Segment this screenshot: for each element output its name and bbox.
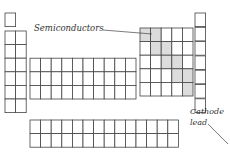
element-cell [83, 72, 94, 86]
element-cell [161, 82, 172, 96]
element-cell [30, 72, 41, 86]
element-cell [41, 85, 52, 99]
element-cell [62, 134, 73, 148]
element-cell [83, 134, 94, 148]
element-cell [125, 120, 136, 134]
element-cell [51, 72, 62, 86]
element-cell [94, 58, 105, 72]
element-cell [147, 120, 158, 134]
element-cell [136, 134, 147, 148]
element-cell [115, 72, 126, 86]
element-cell [51, 120, 62, 134]
element-cell [115, 58, 126, 72]
element-cell [104, 72, 115, 86]
semiconductors-label: Semiconductors [34, 23, 104, 33]
element-cell [62, 85, 73, 99]
element-cell [72, 85, 83, 99]
element-cell [41, 134, 52, 148]
element-cell [5, 31, 16, 45]
element-cell [151, 55, 162, 69]
element-cell [182, 69, 193, 83]
element-cell [94, 120, 105, 134]
element-cell [5, 99, 16, 113]
element-cell [195, 85, 206, 99]
element-cell [161, 28, 172, 42]
element-cell [72, 58, 83, 72]
element-cell [125, 85, 136, 99]
element-cell [161, 42, 172, 56]
element-cell [151, 82, 162, 96]
element-cell-hydrogen [5, 13, 16, 27]
element-cell [157, 134, 168, 148]
element-cell [72, 134, 83, 148]
element-cell [94, 85, 105, 99]
cathode-lead-label-line1: Cathode [190, 107, 224, 116]
element-cell [172, 69, 183, 83]
element-cell [104, 134, 115, 148]
periodic-table-cells [5, 13, 206, 147]
element-cell [16, 31, 27, 45]
element-cell [5, 72, 16, 86]
element-cell [157, 120, 168, 134]
element-cell [62, 120, 73, 134]
element-cell [16, 58, 27, 72]
element-cell [115, 134, 126, 148]
element-cell [125, 58, 136, 72]
element-cell [94, 134, 105, 148]
element-cell-helium [195, 13, 206, 27]
element-cell [16, 45, 27, 59]
element-cell [51, 85, 62, 99]
element-cell [161, 69, 172, 83]
element-cell [16, 72, 27, 86]
element-cell [140, 28, 151, 42]
periodic-table-diagram: Semiconductors Cathode lead [0, 0, 230, 154]
element-cell [172, 28, 183, 42]
element-cell [30, 85, 41, 99]
element-cell [172, 42, 183, 56]
cathode-lead-leader-line [208, 124, 228, 144]
element-cell [51, 58, 62, 72]
element-cell [104, 120, 115, 134]
element-cell [168, 134, 179, 148]
element-cell [172, 55, 183, 69]
element-cell [182, 55, 193, 69]
element-cell [151, 28, 162, 42]
element-cell [94, 72, 105, 86]
element-cell [151, 42, 162, 56]
element-cell [182, 28, 193, 42]
element-cell [195, 42, 206, 56]
element-cell [51, 134, 62, 148]
element-cell [41, 120, 52, 134]
element-cell [125, 72, 136, 86]
element-cell [195, 70, 206, 84]
cathode-lead-label-line2: lead [190, 118, 207, 127]
element-cell [5, 85, 16, 99]
element-cell [140, 42, 151, 56]
element-cell [125, 134, 136, 148]
element-cell [195, 27, 206, 41]
element-cell [172, 82, 183, 96]
element-cell [147, 134, 158, 148]
element-cell [168, 120, 179, 134]
element-cell [182, 82, 193, 96]
element-cell [83, 85, 94, 99]
element-cell [83, 58, 94, 72]
element-cell [62, 72, 73, 86]
element-cell [161, 55, 172, 69]
element-cell [30, 134, 41, 148]
element-cell [41, 58, 52, 72]
element-cell [30, 120, 41, 134]
element-cell [136, 120, 147, 134]
element-cell [115, 120, 126, 134]
element-cell [16, 99, 27, 113]
element-cell [83, 120, 94, 134]
element-cell [16, 85, 27, 99]
element-cell [104, 58, 115, 72]
element-cell [5, 45, 16, 59]
element-cell [195, 56, 206, 70]
element-cell [151, 69, 162, 83]
element-cell [115, 85, 126, 99]
element-cell [182, 42, 193, 56]
element-cell [72, 120, 83, 134]
element-cell [140, 82, 151, 96]
